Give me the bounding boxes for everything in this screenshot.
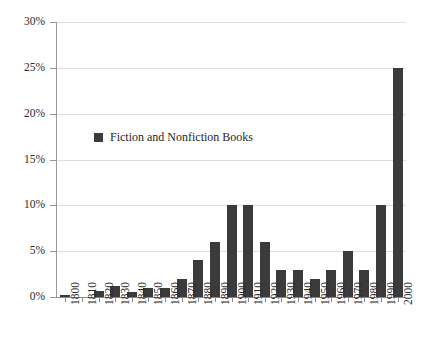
x-axis-tick [248, 297, 249, 302]
x-axis-label: 1940 [303, 282, 315, 305]
x-axis-tick [232, 297, 233, 302]
x-axis-tick [398, 297, 399, 302]
bars-layer [57, 22, 406, 297]
x-axis-tick [82, 297, 83, 302]
x-axis-label: 1930 [286, 282, 298, 305]
x-axis-tick [298, 297, 299, 302]
x-axis-label: 1920 [270, 282, 282, 305]
y-axis-label: 30% [24, 16, 45, 28]
x-axis-tick [99, 297, 100, 302]
x-axis-label: 1900 [237, 282, 249, 305]
x-axis-label: 1850 [153, 282, 165, 305]
x-axis-label: 1880 [203, 282, 215, 305]
x-axis-tick [215, 297, 216, 302]
bar-chart: 0%5%10%15%20%25%30% 18001810182018301840… [0, 0, 424, 348]
x-axis-tick [182, 297, 183, 302]
x-axis-label: 1800 [70, 282, 82, 305]
x-axis-tick [148, 297, 149, 302]
x-axis-label: 1810 [87, 282, 99, 305]
chart-legend: Fiction and Nonfiction Books [94, 131, 253, 143]
x-axis-label: 1830 [120, 282, 132, 305]
x-axis-tick [331, 297, 332, 302]
x-axis-tick [381, 297, 382, 302]
x-axis-label: 1990 [386, 282, 398, 305]
y-axis-label: 5% [30, 245, 45, 257]
x-axis-tick [315, 297, 316, 302]
x-axis-label: 1980 [369, 282, 381, 305]
x-axis-label: 1840 [137, 282, 149, 305]
x-axis-tick [265, 297, 266, 302]
x-axis-tick [348, 297, 349, 302]
x-axis-tick [165, 297, 166, 302]
x-axis-label: 1860 [170, 282, 182, 305]
y-axis-label: 0% [30, 291, 45, 303]
x-axis-label: 1870 [187, 282, 199, 305]
legend-label: Fiction and Nonfiction Books [110, 131, 253, 143]
bar [393, 68, 403, 297]
x-axis-label: 1970 [353, 282, 365, 305]
y-axis-label: 25% [24, 62, 45, 74]
x-axis-tick [281, 297, 282, 302]
x-axis-tick [115, 297, 116, 302]
y-axis-label: 15% [24, 154, 45, 166]
x-axis-label: 1820 [104, 282, 116, 305]
x-axis-label: 2000 [403, 282, 415, 305]
x-axis-tick [364, 297, 365, 302]
legend-swatch-icon [94, 133, 103, 142]
x-axis-label: 1960 [336, 282, 348, 305]
y-axis-label: 10% [24, 199, 45, 211]
x-axis-tick [198, 297, 199, 302]
x-axis-label: 1950 [320, 282, 332, 305]
x-axis-label: 1890 [220, 282, 232, 305]
x-axis-label: 1910 [253, 282, 265, 305]
y-axis-label: 20% [24, 108, 45, 120]
x-axis-tick [132, 297, 133, 302]
x-axis-tick [65, 297, 66, 302]
